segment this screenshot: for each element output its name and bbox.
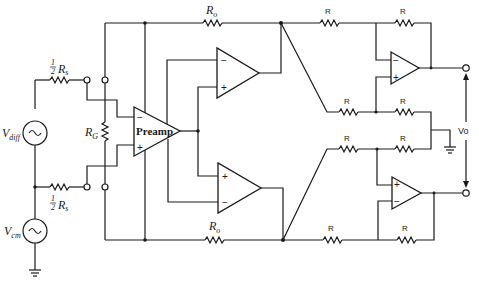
resistor-rs-bottom [50,184,69,190]
wire [261,188,283,240]
wire [414,23,431,68]
resistor-r [320,20,339,26]
minus-sign: − [221,55,227,66]
ro-top-label: Ro [205,3,217,19]
vdiff-label: Vdiff [2,126,22,142]
output-terminal-top [463,65,469,71]
ro-bottom: Ro [145,219,283,243]
ground-icon [444,147,456,153]
r-label: R [328,224,334,233]
wire [378,201,392,240]
r-label: R [344,97,350,106]
junction-dot [433,192,436,195]
resistor-r [397,237,416,243]
instrumentation-amplifier-schematic: Vdiff Vcm 1 2 Rs 1 2 Rs [0,0,479,284]
buffer-upper: − + [167,23,281,131]
ro-top: Ro [145,3,281,26]
resistor-r [339,146,358,152]
wire [376,77,391,112]
wire [198,87,217,131]
plus-sign: + [222,171,228,182]
minus-sign: − [137,112,143,123]
wire [87,145,134,184]
resistor-r [395,146,414,152]
rs-bottom-frac-num: 1 [51,194,55,203]
preamp: − + Preamp [134,21,200,242]
plus-sign: + [221,82,227,93]
resistor-r [323,237,342,243]
input-terminal-bottom [84,184,90,190]
wire [376,23,391,60]
preamp-label: Preamp [136,125,173,137]
vcm-label: Vcm [4,224,21,240]
resistor-r [339,109,358,115]
rg-label: RG [84,125,98,141]
guard-terminal-bottom [102,184,108,190]
ground-icon [29,270,41,276]
resistor-ro-top [203,20,222,26]
wire [168,139,218,202]
wire [259,23,281,73]
wire [87,83,134,117]
minus-sign: − [393,55,399,66]
r-label: R [325,7,331,16]
r-label: R [400,97,406,106]
rs-top-frac-den: 2 [51,67,55,76]
arrow-down-icon [463,181,469,188]
wire [377,149,392,185]
rs-top-label: Rs [57,62,68,77]
output-terminal-bottom [463,190,469,196]
buffer-lower: + − [168,131,283,240]
resistor-rg [102,122,108,141]
rs-top-frac-num: 1 [51,58,55,67]
plus-sign: + [393,72,399,83]
arrow-up-icon [463,73,469,80]
wire [431,130,450,147]
wire [281,23,339,112]
minus-sign: − [394,196,400,207]
input-terminal-top [84,77,90,83]
minus-sign: − [222,197,228,208]
resistor-rs-top [50,77,69,83]
wire [167,60,217,124]
output-stage: R R − + R R R R [281,7,469,243]
input-section: Vdiff Vcm 1 2 Rs 1 2 Rs [2,58,90,276]
resistor-ro-bottom [205,237,224,243]
ro-bottom-label: Ro [208,219,220,235]
r-label: R [400,134,406,143]
vo-label: Vo [458,126,469,136]
wire [414,112,431,149]
plus-sign: + [394,179,400,190]
resistor-r [395,20,414,26]
r-label: R [400,7,406,16]
r-label: R [344,134,350,143]
rs-bottom-label: Rs [57,198,68,213]
wire [198,131,218,176]
junction-dot [374,110,377,113]
plus-sign: + [137,142,143,153]
r-label: R [402,224,408,233]
wire [416,193,434,240]
guard-terminal-top [102,77,108,83]
rs-bottom-frac-den: 2 [51,203,55,212]
resistor-r [395,109,414,115]
junction-dot [430,67,433,70]
